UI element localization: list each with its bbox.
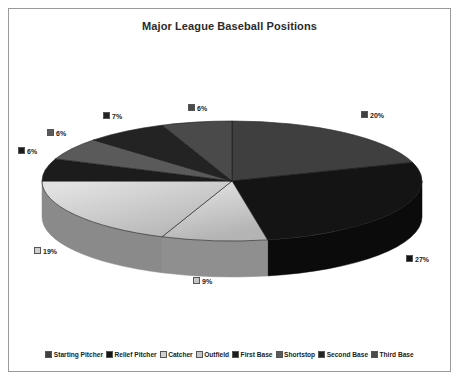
legend-swatch-icon — [45, 351, 52, 358]
legend-item-label: Starting Pitcher — [54, 351, 103, 358]
legend-swatch-icon — [196, 351, 203, 358]
legend-item-outfield[interactable]: Outfield — [196, 350, 229, 360]
legend-swatch-icon — [18, 147, 25, 154]
legend-item-second-base[interactable]: Second Base — [318, 350, 368, 360]
legend-swatch-icon — [371, 351, 378, 358]
pie-percent-value: 6% — [56, 130, 66, 137]
pie-top-faces — [42, 121, 422, 241]
pie-percent-label: 20% — [361, 110, 384, 120]
legend-item-label: Shortstop — [284, 351, 315, 358]
pie-percent-value: 20% — [370, 112, 384, 119]
legend-item-label: Catcher — [168, 351, 193, 358]
pie-percent-value: 19% — [43, 248, 57, 255]
pie-percent-value: 6% — [27, 148, 37, 155]
pie-percent-label: 9% — [193, 276, 212, 286]
pie-percent-label: 6% — [18, 146, 37, 156]
pie-chart: 20%27%9%19%6%6%7%6% — [0, 0, 459, 381]
legend-swatch-icon — [406, 255, 413, 262]
legend-swatch-icon — [232, 351, 239, 358]
pie-percent-value: 27% — [415, 256, 429, 263]
pie-percent-label: 6% — [47, 128, 66, 138]
pie-percent-label: 19% — [34, 246, 57, 256]
legend-item-label: Second Base — [327, 351, 368, 358]
legend-item-catcher[interactable]: Catcher — [160, 350, 193, 360]
legend-item-shortstop[interactable]: Shortstop — [276, 350, 316, 360]
pie-chart-svg — [0, 0, 459, 381]
legend-item-label: First Base — [241, 351, 273, 358]
legend-swatch-icon — [276, 351, 283, 358]
legend-item-starting-pitcher[interactable]: Starting Pitcher — [45, 350, 103, 360]
pie-percent-value: 6% — [197, 105, 207, 112]
legend-item-label: Outfield — [204, 351, 229, 358]
legend-item-label: Relief Pitcher — [114, 351, 156, 358]
pie-percent-value: 7% — [112, 113, 122, 120]
legend-swatch-icon — [34, 247, 41, 254]
legend-swatch-icon — [106, 351, 113, 358]
pie-percent-label: 27% — [406, 254, 429, 264]
legend-item-first-base[interactable]: First Base — [232, 350, 272, 360]
legend-swatch-icon — [160, 351, 167, 358]
legend-swatch-icon — [188, 104, 195, 111]
legend-swatch-icon — [361, 111, 368, 118]
pie-percent-value: 9% — [202, 278, 212, 285]
pie-percent-label: 6% — [188, 103, 207, 113]
legend-swatch-icon — [47, 129, 54, 136]
pie-slice-side — [162, 237, 268, 277]
legend-item-third-base[interactable]: Third Base — [371, 350, 414, 360]
legend-swatch-icon — [193, 277, 200, 284]
legend-item-relief-pitcher[interactable]: Relief Pitcher — [106, 350, 157, 360]
legend-swatch-icon — [103, 112, 110, 119]
chart-legend: Starting PitcherRelief PitcherCatcherOut… — [0, 350, 459, 360]
legend-item-label: Third Base — [380, 351, 414, 358]
pie-percent-label: 7% — [103, 111, 122, 121]
legend-swatch-icon — [318, 351, 325, 358]
